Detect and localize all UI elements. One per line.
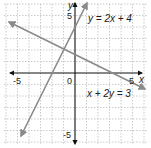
y-tick-5: 5 — [67, 11, 72, 21]
y-tick-neg5: -5 — [63, 130, 71, 140]
y-axis-label: y — [67, 0, 74, 11]
equation-label-2: x + 2y = 3 — [86, 88, 131, 99]
origin-label: 0 — [67, 76, 72, 86]
x-tick-5: 5 — [129, 76, 134, 86]
x-tick-neg5: -5 — [13, 76, 21, 86]
coordinate-graph: y x 5 -5 -5 5 0 y = 2x + 4 x + 2y = 3 — [0, 0, 151, 148]
equation-label-1: y = 2x + 4 — [87, 13, 132, 24]
line-y-eq-2x-plus-4 — [21, 3, 87, 136]
x-axis-label: x — [138, 74, 145, 85]
